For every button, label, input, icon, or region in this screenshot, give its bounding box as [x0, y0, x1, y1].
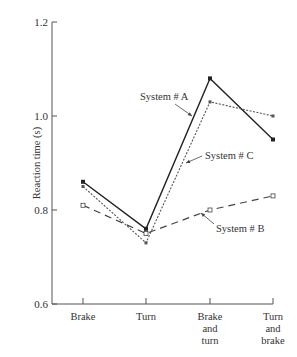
y-axis-label: Reaction time (s) [31, 126, 43, 199]
data-point-marker [81, 203, 85, 207]
data-point-marker [208, 76, 212, 80]
data-point-marker [145, 241, 148, 244]
series-line-systemc [83, 102, 273, 243]
annotation-label-systemc: System # C [205, 150, 253, 161]
data-point-marker [208, 208, 212, 212]
annotation-label-systemb: System # B [216, 223, 264, 234]
y-tick-label: 1.0 [34, 110, 48, 122]
x-category-label: Turn [136, 311, 157, 322]
reaction-time-chart: 0.60.81.01.2BrakeTurnBrakeandturnTurnand… [0, 0, 297, 357]
data-point-marker [271, 138, 275, 142]
data-point-marker [81, 180, 85, 184]
data-point-marker [144, 232, 148, 236]
data-point-marker [271, 194, 275, 198]
annotation-label-systema: System # A [140, 91, 189, 102]
x-category-label: Brake [70, 311, 95, 322]
axes: 0.60.81.01.2BrakeTurnBrakeandturnTurnand… [31, 16, 285, 346]
x-category-label: Turnandbrake [261, 311, 285, 346]
data-point-marker [144, 227, 148, 231]
data-point-marker [209, 100, 212, 103]
y-tick-label: 1.2 [34, 16, 48, 28]
x-category-label: Brakeandturn [197, 311, 222, 346]
y-tick-label: 0.8 [34, 204, 48, 216]
arrowhead-icon [188, 112, 192, 116]
y-tick-label: 0.6 [34, 298, 48, 310]
data-point-marker [272, 115, 275, 118]
data-point-marker [82, 185, 85, 188]
